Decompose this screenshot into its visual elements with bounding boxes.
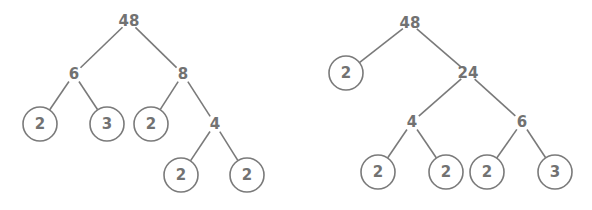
factor-tree-diagram: 4868232422 48224462223 [0,0,592,210]
tree-edge [419,79,461,116]
node-label: 2 [341,64,351,82]
node-label: 4 [210,115,220,133]
node-label: 2 [441,163,451,181]
tree-edge [359,29,403,63]
tree-edge [190,131,210,160]
tree-edge [80,27,122,68]
tree-edge [79,82,98,110]
composite-node: 4 [210,115,220,133]
prime-factor-node: 2 [23,107,57,141]
prime-factor-node: 2 [470,155,504,189]
factor-tree-right: 48224462223 [329,14,572,189]
prime-factor-node: 2 [230,158,264,192]
prime-factor-node: 2 [134,107,168,141]
prime-factor-node: 2 [429,155,463,189]
tree-edge [475,79,516,116]
composite-node: 6 [517,113,527,131]
node-label: 2 [373,163,383,181]
prime-factor-node: 2 [164,158,198,192]
composite-node: 4 [407,113,417,131]
tree-edge [527,130,546,158]
tree-edge [417,29,461,67]
tree-edge [220,132,238,161]
node-label: 3 [102,115,112,133]
node-label: 2 [35,115,45,133]
composite-node: 8 [178,65,188,83]
composite-node: 24 [458,64,479,82]
composite-node: 6 [69,65,79,83]
composite-node: 48 [400,14,421,32]
node-label: 2 [242,166,252,184]
node-label: 3 [550,163,560,181]
tree-edge [160,82,178,110]
tree-edge [188,82,210,117]
composite-node: 48 [119,12,140,30]
node-label: 4 [407,113,417,131]
node-label: 6 [69,65,79,83]
tree-edge [50,81,69,109]
node-label: 2 [146,115,156,133]
tree-edge [497,129,517,158]
prime-factor-node: 3 [90,107,124,141]
node-label: 48 [400,14,421,32]
tree-edge [417,129,436,157]
prime-factor-node: 2 [329,56,363,90]
factor-tree-left: 4868232422 [23,12,264,192]
node-label: 8 [178,65,188,83]
tree-edge [388,129,407,157]
node-label: 24 [458,64,479,82]
node-label: 6 [517,113,527,131]
node-label: 48 [119,12,140,30]
node-label: 2 [176,166,186,184]
prime-factor-node: 3 [538,155,572,189]
tree-edge [135,27,176,67]
prime-factor-node: 2 [361,155,395,189]
node-label: 2 [482,163,492,181]
